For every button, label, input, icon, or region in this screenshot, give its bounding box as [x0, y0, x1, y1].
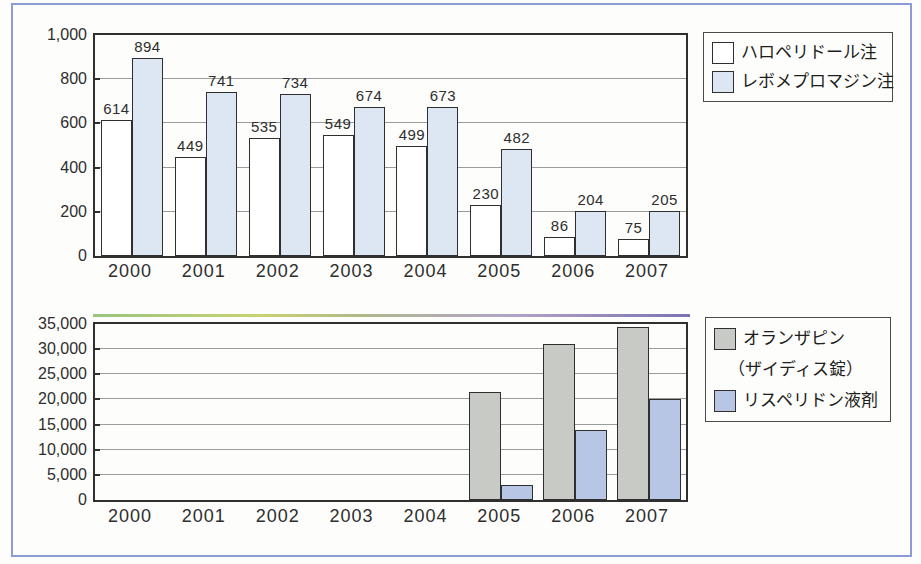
bar-series2 — [427, 107, 458, 256]
bar-series2 — [649, 211, 680, 256]
bar-series2 — [649, 399, 681, 500]
legend-item: オランザピン — [714, 323, 882, 354]
bar-value-label: 482 — [485, 129, 549, 146]
legend-item: リスペリドン液剤 — [714, 385, 882, 416]
y-axis-tick-mark — [93, 78, 100, 80]
legend: ハロペリドール注レボメプロマジン注 — [703, 32, 893, 102]
plot-area — [93, 322, 688, 502]
legend-swatch — [714, 390, 736, 412]
bar-series1 — [470, 205, 501, 256]
gridline — [95, 424, 686, 425]
x-axis-category-label: 2000 — [93, 261, 167, 282]
gridline — [95, 373, 686, 374]
legend-item-continuation: （ザイディス錠） — [714, 354, 882, 385]
bar-series2 — [501, 149, 532, 256]
bar-value-label: 674 — [337, 87, 401, 104]
gridline — [95, 348, 686, 349]
y-axis-tick-label: 15,000 — [18, 416, 87, 434]
y-axis-tick-label: 20,000 — [18, 390, 87, 408]
x-axis-category-label: 2005 — [462, 506, 536, 527]
x-axis-category-label: 2007 — [610, 506, 684, 527]
x-axis-category-label: 2004 — [389, 261, 463, 282]
scanned-chart-figure: 6148944497415357345496744996732304828620… — [0, 0, 921, 564]
plot-area: 6148944497415357345496744996732304828620… — [93, 33, 688, 258]
bar-value-label: 673 — [411, 87, 475, 104]
x-axis-category-label: 2002 — [241, 506, 315, 527]
bar-series1 — [618, 239, 649, 256]
y-axis-tick-label: 10,000 — [18, 441, 87, 459]
bar-series1 — [544, 237, 575, 256]
bar-value-label: 894 — [115, 38, 179, 55]
bar-series1 — [396, 146, 427, 256]
x-axis-category-label: 2006 — [536, 261, 610, 282]
x-axis-category-label: 2002 — [241, 261, 315, 282]
y-axis-tick-mark — [93, 474, 100, 476]
bar-value-label: 204 — [559, 191, 623, 208]
scan-artifact-line — [93, 314, 690, 317]
legend-label: オランザピン — [743, 330, 845, 347]
x-axis-category-label: 2006 — [536, 506, 610, 527]
bar-value-label: 741 — [189, 72, 253, 89]
legend-swatch — [712, 42, 734, 64]
bar-series2 — [132, 58, 163, 256]
legend-label: レボメプロマジン注 — [741, 73, 894, 90]
y-axis-tick-label: 600 — [18, 114, 87, 132]
bar-series2 — [501, 485, 533, 500]
y-axis-tick-mark — [93, 167, 100, 169]
y-axis-tick-label: 400 — [18, 159, 87, 177]
legend-swatch — [714, 328, 736, 350]
bar-series1 — [617, 327, 649, 500]
y-axis-tick-mark — [93, 398, 100, 400]
y-axis-tick-label: 0 — [18, 491, 87, 509]
x-axis-category-label: 2005 — [462, 261, 536, 282]
y-axis-tick-mark — [93, 373, 100, 375]
bar-series2 — [575, 430, 607, 500]
y-axis-tick-label: 200 — [18, 203, 87, 221]
x-axis-category-label: 2007 — [610, 261, 684, 282]
legend: オランザピン（ザイディス錠）リスペリドン液剤 — [705, 317, 891, 422]
y-axis-tick-label: 1,000 — [18, 26, 87, 44]
bar-series1 — [469, 392, 501, 500]
x-axis-category-label: 2003 — [315, 506, 389, 527]
y-axis-tick-label: 35,000 — [18, 315, 87, 333]
x-axis-category-label: 2001 — [167, 261, 241, 282]
y-axis-tick-mark — [93, 348, 100, 350]
bar-series1 — [323, 135, 354, 256]
legend-label: ハロペリドール注 — [741, 44, 877, 61]
legend-label: リスペリドン液剤 — [743, 392, 878, 409]
y-axis-tick-mark — [93, 449, 100, 451]
bar-series1 — [249, 138, 280, 256]
y-axis-tick-mark — [93, 122, 100, 124]
gridline — [95, 78, 686, 79]
legend-label-line2: （ザイディス錠） — [728, 361, 863, 378]
x-axis-category-label: 2004 — [389, 506, 463, 527]
x-axis-category-label: 2001 — [167, 506, 241, 527]
x-axis-category-label: 2003 — [315, 261, 389, 282]
y-axis-tick-label: 25,000 — [18, 365, 87, 383]
y-axis-tick-label: 30,000 — [18, 340, 87, 358]
bar-value-label: 734 — [263, 74, 327, 91]
y-axis-tick-mark — [93, 211, 100, 213]
legend-item: ハロペリドール注 — [712, 38, 884, 67]
legend-item: レボメプロマジン注 — [712, 67, 884, 96]
gridline — [95, 122, 686, 123]
legend-swatch — [712, 71, 734, 93]
y-axis-tick-label: 5,000 — [18, 466, 87, 484]
bar-value-label: 205 — [633, 191, 697, 208]
bar-series1 — [175, 157, 206, 256]
y-axis-tick-label: 0 — [18, 247, 87, 265]
bar-series1 — [101, 120, 132, 256]
bar-series1 — [543, 344, 575, 500]
gridline — [95, 398, 686, 399]
y-axis-tick-label: 800 — [18, 70, 87, 88]
y-axis-tick-mark — [93, 424, 100, 426]
x-axis-category-label: 2000 — [93, 506, 167, 527]
